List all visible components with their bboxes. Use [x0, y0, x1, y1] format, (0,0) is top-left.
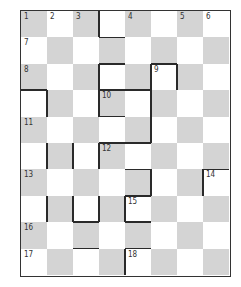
grid-cell[interactable] — [203, 117, 229, 143]
word-boundary-line — [98, 64, 100, 90]
grid-cell[interactable] — [177, 196, 203, 222]
word-boundary-line — [99, 63, 125, 65]
grid-cell[interactable] — [177, 64, 203, 90]
grid-cell[interactable] — [47, 37, 73, 63]
word-boundary-line — [125, 195, 151, 197]
grid-cell[interactable] — [177, 169, 203, 195]
word-boundary-line — [125, 221, 151, 223]
word-boundary-line — [150, 117, 152, 143]
clue-number: 12 — [102, 145, 111, 153]
grid-cell[interactable] — [177, 249, 203, 275]
grid-cell[interactable] — [73, 196, 99, 222]
grid-cell[interactable] — [151, 37, 177, 63]
grid-cell[interactable] — [99, 196, 125, 222]
grid-cell[interactable] — [99, 64, 125, 90]
clue-number: 8 — [24, 66, 29, 74]
clue-number: 4 — [128, 13, 133, 21]
word-boundary-line — [46, 196, 48, 222]
grid-cell[interactable] — [203, 143, 229, 169]
word-boundary-line — [98, 11, 100, 37]
grid-cell[interactable] — [125, 222, 151, 248]
word-boundary-line — [99, 37, 125, 39]
grid-cell[interactable] — [99, 11, 125, 37]
clue-number: 15 — [128, 198, 137, 206]
grid-cell[interactable] — [73, 169, 99, 195]
grid-cell[interactable] — [151, 11, 177, 37]
clue-number: 10 — [102, 92, 111, 100]
grid-cell[interactable] — [125, 169, 151, 195]
grid-cell[interactable] — [125, 37, 151, 63]
grid-cell[interactable] — [21, 143, 47, 169]
clue-number: 13 — [24, 171, 33, 179]
grid-cell[interactable] — [125, 90, 151, 116]
grid-cell[interactable] — [73, 64, 99, 90]
word-boundary-line — [46, 143, 48, 169]
grid-cell[interactable] — [151, 222, 177, 248]
grid-cell[interactable] — [203, 222, 229, 248]
word-boundary-line — [203, 169, 229, 171]
grid-cell[interactable] — [21, 196, 47, 222]
grid-cell[interactable] — [47, 117, 73, 143]
grid-cell[interactable] — [151, 249, 177, 275]
clue-number: 17 — [24, 251, 33, 259]
grid-cell[interactable] — [73, 249, 99, 275]
grid-cell[interactable] — [99, 249, 125, 275]
word-boundary-line — [73, 248, 99, 250]
grid-cell[interactable] — [151, 90, 177, 116]
grid-cell[interactable] — [99, 117, 125, 143]
word-boundary-line — [124, 196, 126, 222]
word-boundary-line — [99, 89, 151, 91]
grid-cell[interactable] — [177, 37, 203, 63]
word-boundary-line — [72, 196, 74, 222]
grid-cell[interactable] — [47, 196, 73, 222]
grid-cell[interactable] — [177, 90, 203, 116]
word-boundary-line — [46, 90, 48, 116]
word-boundary-line — [72, 143, 74, 169]
grid-cell[interactable] — [47, 169, 73, 195]
grid-cell[interactable] — [125, 64, 151, 90]
grid-cell[interactable] — [125, 143, 151, 169]
grid-cell[interactable] — [73, 90, 99, 116]
word-boundary-line — [125, 248, 151, 250]
grid-cell[interactable] — [203, 196, 229, 222]
grid-cell[interactable] — [99, 169, 125, 195]
grid-cell[interactable] — [47, 64, 73, 90]
grid-cell[interactable] — [47, 90, 73, 116]
grid-cell[interactable] — [47, 249, 73, 275]
clue-number: 3 — [76, 13, 81, 21]
clue-number: 7 — [24, 39, 29, 47]
grid-cell[interactable] — [151, 196, 177, 222]
grid-cell[interactable] — [47, 143, 73, 169]
grid-cell[interactable] — [73, 222, 99, 248]
word-boundary-line — [98, 90, 100, 116]
grid-cell[interactable] — [151, 117, 177, 143]
clue-number: 16 — [24, 224, 33, 232]
grid-cell[interactable] — [21, 90, 47, 116]
grid-cell[interactable] — [151, 143, 177, 169]
grid-cell[interactable] — [151, 169, 177, 195]
grid-cell[interactable] — [177, 117, 203, 143]
grid-cell[interactable] — [73, 37, 99, 63]
grid-cell[interactable] — [125, 117, 151, 143]
grid-cell[interactable] — [99, 37, 125, 63]
crossword-grid: 123456789101112131415161718 — [20, 10, 231, 277]
grid-cell[interactable] — [203, 249, 229, 275]
grid-cell[interactable] — [203, 90, 229, 116]
grid-cell[interactable] — [47, 222, 73, 248]
grid-cell[interactable] — [203, 64, 229, 90]
word-boundary-line — [125, 169, 151, 171]
grid-cell[interactable] — [99, 222, 125, 248]
word-boundary-line — [99, 116, 125, 118]
grid-cell[interactable] — [73, 117, 99, 143]
clue-number: 11 — [24, 119, 33, 127]
grid-cell[interactable] — [177, 143, 203, 169]
clue-number: 2 — [50, 13, 55, 21]
clue-number: 1 — [24, 13, 29, 21]
clue-number: 5 — [180, 13, 185, 21]
grid-cell[interactable] — [177, 222, 203, 248]
grid-cell[interactable] — [73, 143, 99, 169]
word-boundary-line — [202, 169, 204, 195]
word-boundary-line — [150, 169, 152, 195]
word-boundary-line — [176, 64, 178, 90]
grid-cell[interactable] — [203, 37, 229, 63]
